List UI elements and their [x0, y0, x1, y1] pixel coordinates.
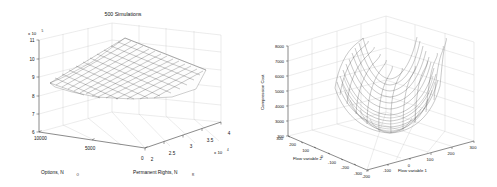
right-z-axis-label: Compression Cost — [260, 74, 265, 110]
right-ytick-2: 100 — [302, 148, 310, 153]
left-z-exponent-sup: 5 — [42, 29, 44, 33]
left-x-exponent-text: x 10 — [214, 150, 223, 155]
left-chart-svg: 11 10 9 8 7 6 x 10 5 10000 5000 0 — [0, 0, 250, 187]
right-ztick-0: 8000 — [275, 44, 285, 49]
right-x-axis-label: Flow variable 1 — [398, 168, 428, 173]
left-xtick-4: 4 — [228, 131, 231, 136]
right-xtick-3: 100 — [427, 157, 435, 162]
right-xtick-4: 200 — [448, 151, 456, 156]
right-y-axis-label: Flow variable 2 — [293, 156, 323, 161]
left-y-axis-label: Options, N — [41, 170, 64, 175]
left-z-exponent: x 10 5 — [28, 29, 44, 36]
right-grid — [288, 16, 474, 170]
left-ytick-0: 10000 — [34, 136, 47, 141]
left-ztick-1: 10 — [29, 57, 35, 62]
left-xtick-3: 3.5 — [207, 138, 214, 143]
left-ztick-4: 7 — [32, 112, 35, 117]
right-xtick-5: 300 — [470, 145, 478, 150]
right-ztick-2: 6000 — [275, 74, 285, 79]
right-ztick-1: 7000 — [275, 59, 285, 64]
right-xtick-2: 0 — [408, 163, 411, 168]
figure-container: 11 10 9 8 7 6 x 10 5 10000 5000 0 — [0, 0, 497, 187]
left-x-axis-label-sub: R — [192, 173, 195, 177]
chart-right-compression-cost: 8000 7000 6000 5000 4000 3000 300 Compre… — [250, 0, 497, 187]
left-ztick-2: 9 — [32, 75, 35, 80]
right-ztick-4: 4000 — [275, 104, 285, 109]
right-ytick-1: 200 — [289, 142, 297, 147]
left-z-ticks: 11 10 9 8 7 6 — [29, 38, 39, 135]
left-xtick-2: 3 — [190, 144, 193, 149]
left-ytick-1: 5000 — [85, 146, 96, 151]
left-x-axis-label: Permanent Rights, N — [133, 170, 178, 175]
left-xtick-1: 2.5 — [169, 151, 176, 156]
chart-left-simulations: 11 10 9 8 7 6 x 10 5 10000 5000 0 — [0, 0, 250, 187]
right-ztick-5: 3000 — [275, 119, 285, 124]
right-ytick-0: 300 — [276, 136, 284, 141]
right-xtick-1: -100 — [383, 168, 392, 173]
left-xtick-0: 2 — [151, 157, 154, 162]
right-ztick-3: 5000 — [275, 89, 285, 94]
left-x-exponent-sup: 4 — [227, 148, 229, 152]
left-z-exponent-text: x 10 — [28, 31, 37, 36]
left-ztick-3: 8 — [32, 94, 35, 99]
right-ytick-5: -200 — [341, 165, 350, 170]
left-ytick-2: 0 — [141, 156, 144, 161]
left-y-axis-label-sub: O — [77, 173, 80, 177]
left-x-exponent: x 10 4 — [214, 148, 229, 155]
left-chart-title: 500 Simulations — [105, 11, 142, 17]
right-chart-svg: 8000 7000 6000 5000 4000 3000 300 Compre… — [250, 0, 497, 187]
right-z-ticks: 8000 7000 6000 5000 4000 3000 300 — [275, 44, 288, 139]
left-ztick-5: 6 — [32, 130, 35, 135]
right-xtick-0: -200 — [362, 174, 371, 179]
left-ztick-0: 11 — [30, 38, 35, 43]
right-ytick-4: -100 — [328, 160, 337, 165]
